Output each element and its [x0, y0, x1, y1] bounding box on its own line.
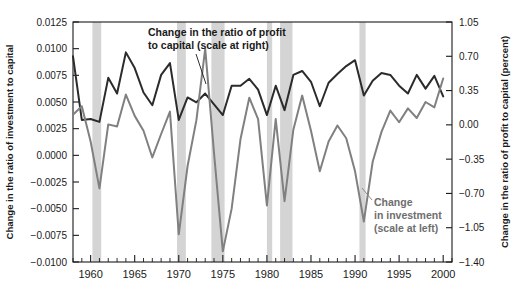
x-tick-label-1965: 1965 — [122, 268, 146, 280]
recession-band-5 — [359, 22, 365, 262]
y-axis-right-title: Change in the ratio of profit to capital… — [499, 36, 510, 248]
x-tick-label-1985: 1985 — [299, 268, 323, 280]
y-tick-label-left-6: −0.0025 — [31, 177, 68, 188]
y-tick-label-left-1: 0.0100 — [36, 43, 67, 54]
y-tick-label-right-0: 1.05 — [459, 17, 479, 28]
y-tick-label-right-5: −0.70 — [459, 188, 485, 199]
y-tick-label-left-2: 0.0075 — [36, 70, 67, 81]
y-axis-left-title: Change in the ratio of investment to cap… — [4, 45, 15, 240]
profit-annotation-line-2: to capital (scale at right) — [148, 39, 269, 51]
x-tick-label-1960: 1960 — [78, 268, 102, 280]
y-tick-label-left-9: −0.0100 — [31, 257, 68, 268]
y-tick-label-left-8: −0.0075 — [31, 230, 68, 241]
y-tick-label-right-7: −1.40 — [459, 257, 485, 268]
y-tick-label-left-7: −0.0050 — [31, 203, 68, 214]
x-tick-label-2000: 2000 — [431, 268, 455, 280]
chart-figure: 0.01250.01000.00750.00500.00250.0000−0.0… — [0, 0, 516, 297]
investment-annotation-line-2: in investment — [374, 209, 442, 221]
y-tick-label-right-1: 0.70 — [459, 51, 479, 62]
recession-band-4 — [280, 22, 292, 262]
dual-axis-line-chart: 0.01250.01000.00750.00500.00250.0000−0.0… — [0, 0, 516, 297]
y-tick-label-right-3: 0.00 — [459, 119, 479, 130]
x-tick-label-1980: 1980 — [255, 268, 279, 280]
investment-series-annotation: Change in investment (scale at left) — [362, 188, 442, 234]
recession-band-0 — [92, 22, 101, 262]
y-tick-label-left-0: 0.0125 — [36, 17, 67, 28]
y-tick-label-left-4: 0.0025 — [36, 123, 67, 134]
investment-annotation-line-3: (scale at left) — [374, 222, 438, 234]
y-tick-label-right-6: −1.05 — [459, 222, 485, 233]
series-line-profit — [73, 52, 443, 122]
x-tick-label-1975: 1975 — [211, 268, 235, 280]
y-tick-label-right-4: −0.35 — [459, 154, 485, 165]
y-tick-label-right-2: 0.35 — [459, 85, 479, 96]
investment-annotation-line-1: Change — [374, 196, 413, 208]
x-tick-label-1995: 1995 — [387, 268, 411, 280]
x-tick-label-1970: 1970 — [167, 268, 191, 280]
y-tick-label-left-3: 0.0050 — [36, 97, 67, 108]
recession-band-3 — [267, 22, 272, 262]
x-tick-label-1990: 1990 — [343, 268, 367, 280]
y-tick-label-left-5: 0.0000 — [36, 150, 67, 161]
profit-annotation-line-1: Change in the ratio of profit — [148, 26, 286, 38]
